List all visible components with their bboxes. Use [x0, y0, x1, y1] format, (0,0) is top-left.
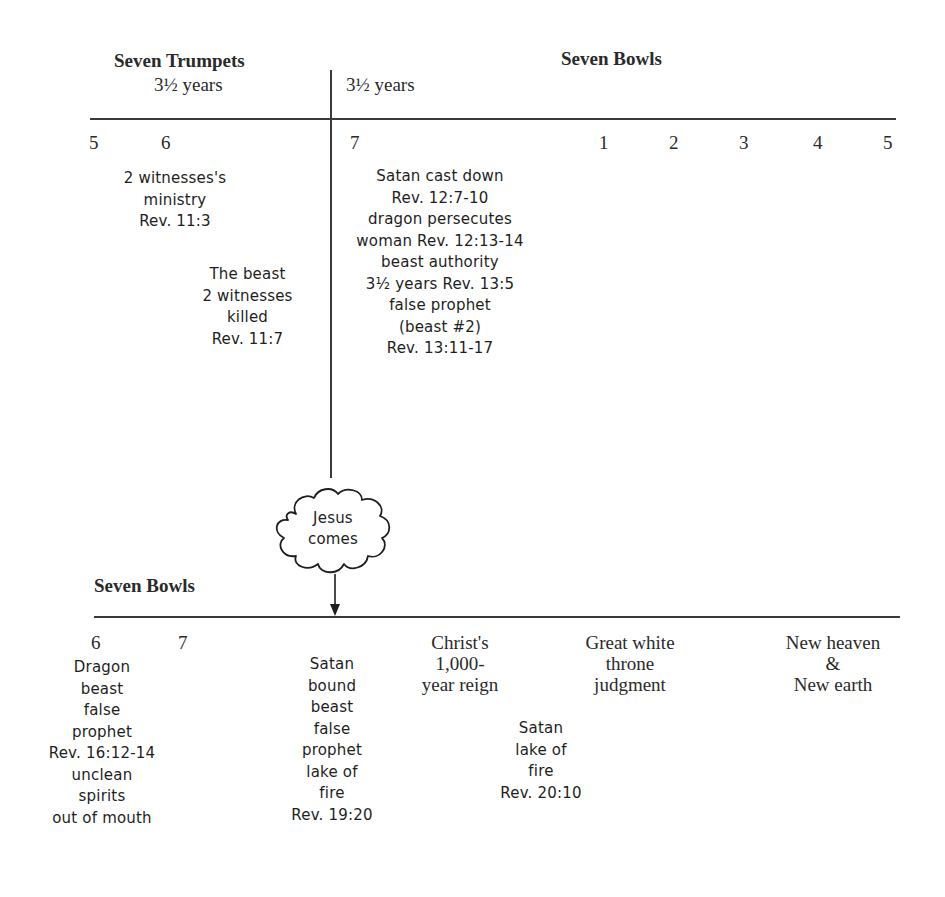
jesus-comes-cloud: Jesus comes	[268, 484, 398, 580]
arrow-down-icon	[328, 574, 342, 618]
trumpet-number-6: 6	[161, 132, 171, 154]
bowls-duration-label: 3½ years	[346, 74, 415, 96]
trumpet-number-5: 5	[89, 132, 99, 154]
seven-bowls-heading-bottom: Seven Bowls	[94, 575, 195, 597]
trumpets-duration-label: 3½ years	[154, 74, 223, 96]
bowl-number-3: 3	[739, 132, 749, 154]
bowl-number-5: 5	[883, 132, 893, 154]
note-trumpet-7-events: Satan cast down Rev. 12:7-10 dragon pers…	[345, 166, 535, 360]
phase-great-white-throne: Great white throne judgment	[560, 632, 700, 695]
bowl-number-1: 1	[599, 132, 609, 154]
bowl-number-6: 6	[91, 632, 101, 654]
bottom-timeline-axis	[94, 616, 900, 618]
trumpet-number-7: 7	[350, 132, 360, 154]
note-bowl-6-events: Dragon beast false prophet Rev. 16:12-14…	[22, 657, 182, 829]
note-satan-lake-of-fire: Satan lake of fire Rev. 20:10	[486, 718, 596, 804]
note-witnesses-killed: The beast 2 witnesses killed Rev. 11:7	[180, 264, 315, 350]
cloud-label: Jesus comes	[268, 508, 398, 550]
note-witnesses-ministry: 2 witnesses's ministry Rev. 11:3	[100, 168, 250, 233]
bowl-number-7: 7	[178, 632, 188, 654]
midpoint-divider-line	[330, 70, 332, 478]
bowl-number-4: 4	[813, 132, 823, 154]
note-satan-bound: Satan bound beast false prophet lake of …	[272, 654, 392, 826]
seven-trumpets-heading: Seven Trumpets	[114, 50, 245, 72]
bowl-number-2: 2	[669, 132, 679, 154]
top-timeline-axis	[90, 118, 896, 120]
seven-bowls-heading-top: Seven Bowls	[561, 48, 662, 70]
phase-new-heaven-earth: New heaven & New earth	[760, 632, 906, 695]
phase-millennium: Christ's 1,000- year reign	[398, 632, 522, 695]
